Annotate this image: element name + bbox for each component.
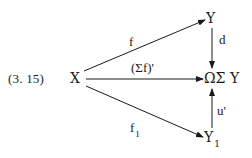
equation-number: (3. 15)	[8, 72, 44, 85]
arrow-x-to-y1	[86, 86, 203, 137]
label-f: f	[129, 35, 133, 48]
node-y1: Y1	[204, 130, 220, 144]
label-f1: f1	[130, 121, 140, 134]
label-f1-base: f	[130, 120, 134, 135]
node-x: X	[70, 71, 80, 85]
node-y: Y	[206, 11, 215, 25]
label-d: d	[219, 33, 226, 46]
label-sigma-f-prime: (Σf)'	[131, 61, 154, 74]
node-y1-base: Y	[204, 129, 213, 145]
node-y1-subscript: 1	[214, 139, 220, 149]
commutative-diagram: (3. 15) X Y ΩΣ Y Y1 f (Σf)' f1 d u'	[0, 0, 252, 158]
node-omega-sigma-y: ΩΣ Y	[204, 71, 239, 85]
label-u-prime: u'	[217, 104, 226, 117]
label-f1-subscript: 1	[135, 129, 140, 139]
